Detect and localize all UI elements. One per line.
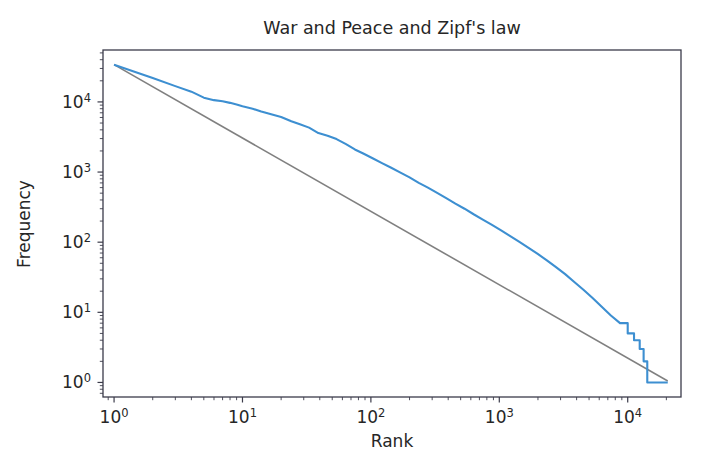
figure-canvas: War and Peace and Zipf's law 10010110210…	[0, 0, 716, 470]
major-tick-marks	[98, 102, 628, 403]
y-tick-label: 103	[62, 161, 91, 182]
x-tick-label: 103	[485, 406, 514, 427]
x-tick-label: 104	[613, 406, 642, 427]
x-tick-labels: 100101102103104	[100, 406, 643, 427]
x-tick-label: 102	[356, 406, 385, 427]
x-axis-label: Rank	[371, 431, 414, 451]
x-tick-label: 100	[100, 406, 129, 427]
y-tick-label: 101	[62, 301, 91, 322]
x-tick-label: 101	[228, 406, 257, 427]
chart-title: War and Peace and Zipf's law	[263, 18, 521, 38]
chart-title-group: War and Peace and Zipf's law	[263, 18, 521, 38]
data-series-group	[114, 65, 668, 383]
y-tick-label: 100	[62, 371, 91, 392]
y-axis-label: Frequency	[14, 180, 34, 268]
zipf-law-chart: War and Peace and Zipf's law 10010110210…	[0, 0, 716, 470]
y-tick-label: 104	[62, 91, 91, 112]
y-tick-label: 102	[62, 231, 91, 252]
y-tick-labels: 100101102103104	[62, 91, 91, 393]
series-zipf-s-law	[114, 65, 668, 381]
